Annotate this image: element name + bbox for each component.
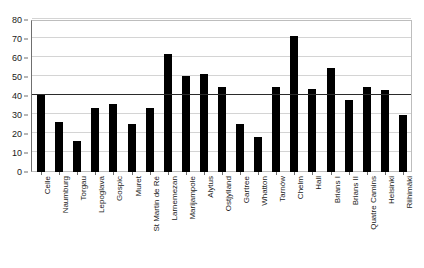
- x-tick-label: Riihimäki: [406, 176, 414, 208]
- y-tick-label: 30: [12, 111, 22, 120]
- x-tick-mark: [168, 172, 169, 175]
- bar: [164, 54, 172, 172]
- bar: [236, 124, 244, 172]
- x-tick-mark: [349, 172, 350, 175]
- bar: [109, 104, 117, 172]
- x-tick-label: Alytus: [207, 176, 215, 198]
- y-tick-label: 50: [12, 73, 22, 82]
- x-tick-label: Gartree: [243, 176, 251, 203]
- x-tick-label: Gospic: [116, 176, 124, 201]
- x-axis-labels: CelleNaumburgTorgauLepoglavaGospicMuretS…: [32, 176, 412, 266]
- x-tick-label: Larnemezan: [171, 176, 179, 220]
- bar: [399, 115, 407, 172]
- bar: [345, 100, 353, 172]
- bar: [290, 36, 298, 172]
- x-tick-label: Helsinki: [388, 176, 396, 204]
- x-tick-mark: [294, 172, 295, 175]
- x-tick-mark: [77, 172, 78, 175]
- bar: [272, 87, 280, 172]
- x-tick-label: Ostjylland: [225, 176, 233, 211]
- x-tick-mark: [222, 172, 223, 175]
- x-tick-label: Brians II: [352, 176, 360, 205]
- x-tick-label: St Martin de Ré: [153, 176, 161, 232]
- x-tick-mark: [258, 172, 259, 175]
- x-tick-label: Chelm: [297, 176, 305, 199]
- y-tick-label: 40: [12, 92, 22, 101]
- bar: [327, 68, 335, 172]
- x-tick-mark: [403, 172, 404, 175]
- x-tick-label: Tarnów: [279, 176, 287, 202]
- bar: [363, 87, 371, 172]
- x-tick-label: Naumburg: [62, 176, 70, 213]
- x-tick-mark: [41, 172, 42, 175]
- y-tick-label: 0: [17, 168, 22, 177]
- bar: [254, 137, 262, 172]
- x-tick-label: Torgau: [80, 176, 88, 200]
- bar: [55, 122, 63, 172]
- y-tick-mark: [24, 77, 28, 78]
- y-tick-mark: [24, 115, 28, 116]
- y-tick-label: 20: [12, 130, 22, 139]
- bar: [182, 76, 190, 172]
- bar: [200, 74, 208, 172]
- x-tick-label: Muret: [135, 176, 143, 196]
- x-tick-label: Quatre Camins: [370, 176, 378, 230]
- x-tick-mark: [59, 172, 60, 175]
- y-tick-mark: [24, 39, 28, 40]
- y-tick-mark: [24, 58, 28, 59]
- bar: [218, 87, 226, 172]
- x-tick-mark: [95, 172, 96, 175]
- x-tick-label: Hall: [315, 176, 323, 190]
- bar: [308, 89, 316, 172]
- x-tick-mark: [367, 172, 368, 175]
- y-tick-mark: [24, 153, 28, 154]
- bar: [73, 141, 81, 172]
- bar: [381, 90, 389, 172]
- y-tick-mark: [24, 172, 28, 173]
- y-tick-label: 80: [12, 16, 22, 25]
- y-tick-label: 70: [12, 35, 22, 44]
- x-tick-mark: [132, 172, 133, 175]
- x-tick-label: Whatton: [261, 176, 269, 206]
- x-tick-mark: [186, 172, 187, 175]
- bar-chart: 01020304050607080 CelleNaumburgTorgauLep…: [0, 0, 424, 268]
- x-tick-mark: [312, 172, 313, 175]
- bar: [37, 95, 45, 172]
- x-tick-label: Brians I: [334, 176, 342, 203]
- bars-container: [32, 20, 412, 172]
- x-tick-mark: [331, 172, 332, 175]
- bar: [146, 108, 154, 172]
- x-tick-label: Lepoglava: [98, 176, 106, 213]
- x-tick-mark: [113, 172, 114, 175]
- bar: [128, 124, 136, 172]
- y-tick-mark: [24, 96, 28, 97]
- x-tick-label: Celle: [44, 176, 52, 194]
- x-tick-mark: [385, 172, 386, 175]
- reference-line-40: [32, 94, 411, 95]
- gridline: [32, 18, 411, 19]
- y-tick-mark: [24, 134, 28, 135]
- x-tick-label: Marijampole: [189, 176, 197, 220]
- y-axis: 01020304050607080: [0, 20, 28, 172]
- x-tick-mark: [204, 172, 205, 175]
- bar: [91, 108, 99, 172]
- x-tick-mark: [276, 172, 277, 175]
- x-tick-mark: [240, 172, 241, 175]
- x-tick-mark: [150, 172, 151, 175]
- y-tick-label: 10: [12, 149, 22, 158]
- y-tick-label: 60: [12, 54, 22, 63]
- y-tick-mark: [24, 20, 28, 21]
